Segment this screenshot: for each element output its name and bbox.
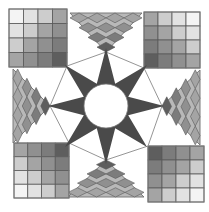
corner-square-bottom-left: [14, 143, 69, 198]
grid-cell: [14, 171, 28, 185]
grid-cell: [42, 143, 56, 157]
grid-cell: [186, 12, 200, 26]
grid-cell: [148, 146, 162, 160]
grid-cell: [148, 188, 162, 202]
grid-cell: [158, 40, 172, 54]
edge-triangle-right: [162, 70, 200, 145]
grid-cell: [14, 184, 28, 198]
grid-cell: [24, 24, 39, 39]
grid-cell: [28, 143, 42, 157]
grid-cell: [38, 9, 53, 24]
grid-cell: [24, 53, 39, 68]
grid-cell: [53, 9, 68, 24]
grid-cell: [144, 12, 158, 26]
grid-cell: [42, 171, 56, 185]
grid-cell: [190, 188, 204, 202]
edge-triangle-top: [70, 13, 142, 52]
grid-cell: [42, 157, 56, 171]
grid-cell: [55, 157, 69, 171]
grid-cell: [172, 54, 186, 68]
grid-cell: [42, 184, 56, 198]
grid-cell: [162, 174, 176, 188]
grid-cell: [55, 184, 69, 198]
eight-point-star: [48, 48, 164, 164]
grid-cell: [53, 24, 68, 39]
grid-cell: [9, 53, 24, 68]
grid-cell: [53, 38, 68, 53]
grid-cell: [38, 53, 53, 68]
grid-cell: [186, 40, 200, 54]
grid-cell: [55, 171, 69, 185]
grid-cell: [176, 174, 190, 188]
grid-cell: [38, 24, 53, 39]
edge-triangle-left: [13, 69, 50, 143]
grid-cell: [144, 40, 158, 54]
grid-cell: [144, 26, 158, 40]
grid-cell: [158, 12, 172, 26]
grid-cell: [172, 12, 186, 26]
grid-cell: [9, 38, 24, 53]
grid-cell: [28, 171, 42, 185]
grid-cell: [176, 160, 190, 174]
grid-cell: [9, 9, 24, 24]
grid-cell: [24, 38, 39, 53]
grid-cell: [38, 38, 53, 53]
grid-cell: [28, 184, 42, 198]
grid-cell: [162, 160, 176, 174]
grid-cell: [148, 174, 162, 188]
corner-square-top-right: [144, 12, 200, 68]
grid-cell: [172, 40, 186, 54]
grid-cell: [190, 146, 204, 160]
grid-cell: [14, 157, 28, 171]
grid-cell: [158, 54, 172, 68]
grid-cell: [148, 160, 162, 174]
corner-square-bottom-right: [148, 146, 204, 202]
quilt-block: [0, 0, 209, 212]
grid-cell: [53, 53, 68, 68]
grid-cell: [172, 26, 186, 40]
grid-cell: [162, 146, 176, 160]
grid-cell: [186, 54, 200, 68]
grid-cell: [158, 26, 172, 40]
grid-cell: [186, 26, 200, 40]
grid-cell: [9, 24, 24, 39]
grid-cell: [190, 160, 204, 174]
grid-cell: [28, 157, 42, 171]
center-circle: [84, 84, 128, 128]
grid-cell: [176, 146, 190, 160]
grid-cell: [190, 174, 204, 188]
edge-triangle-bottom: [68, 160, 144, 197]
corner-square-top-left: [9, 9, 67, 67]
grid-cell: [24, 9, 39, 24]
grid-cell: [176, 188, 190, 202]
grid-cell: [162, 188, 176, 202]
grid-cell: [14, 143, 28, 157]
